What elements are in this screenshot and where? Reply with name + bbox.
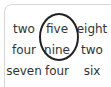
word-r1c1: two <box>6 22 42 36</box>
word-r3c1: seven <box>6 64 42 78</box>
word-r1c3: eight <box>74 22 110 36</box>
word-r3c2: four <box>39 64 75 78</box>
word-r2c1: four <box>6 43 42 57</box>
word-r3c3: six <box>74 64 110 78</box>
word-r2c3: two <box>74 43 110 57</box>
circle-annotation <box>39 13 79 61</box>
